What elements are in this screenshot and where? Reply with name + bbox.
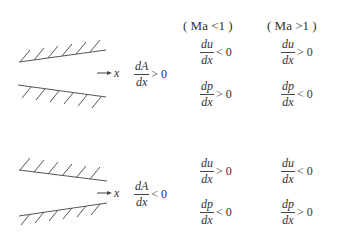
converging-lower-wall	[19, 203, 107, 216]
diverging-upper-hatch	[20, 40, 100, 62]
du-dx-supersonic-diverging: dudx > 0	[281, 38, 313, 67]
diverging-lower-hatch	[22, 87, 101, 108]
du-dx-supersonic-converging: dudx < 0	[281, 157, 313, 186]
axis-x-label: x	[114, 66, 119, 81]
area-relation-diverging: dAdx > 0	[134, 60, 167, 89]
dp-dx-subsonic-converging: dpdx < 0	[200, 198, 232, 227]
dp-dx-supersonic-converging: dpdx > 0	[281, 198, 313, 227]
du-dx-subsonic-converging: dudx > 0	[200, 157, 232, 186]
diverging-lower-wall	[18, 85, 106, 97]
area-relation-converging: dAdx < 0	[134, 180, 167, 209]
flow-arrows	[97, 71, 112, 195]
diverging-nozzle	[18, 40, 106, 108]
converging-nozzle	[19, 158, 107, 225]
dp-dx-subsonic-diverging: dpdx > 0	[200, 80, 232, 109]
header-subsonic: ( Ma <1 )	[183, 18, 233, 34]
du-dx-subsonic-diverging: dudx < 0	[200, 38, 232, 67]
converging-upper-hatch	[20, 158, 100, 179]
axis-x-label: x	[114, 186, 119, 201]
header-supersonic: ( Ma >1 )	[267, 18, 317, 34]
converging-lower-hatch	[21, 204, 100, 225]
dp-dx-supersonic-diverging: dpdx < 0	[281, 80, 313, 109]
